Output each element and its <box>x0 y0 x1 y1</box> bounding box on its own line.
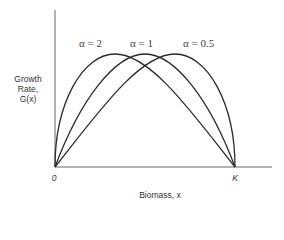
y-label-line2: Rate, <box>6 84 50 94</box>
label-alpha-0.5: α = 0.5 <box>183 37 214 49</box>
curve-alpha-1 <box>55 54 235 167</box>
label-alpha-1: α = 1 <box>130 37 153 49</box>
label-alpha-2: α = 2 <box>79 37 102 49</box>
y-axis-label: Growth Rate, G(x) <box>6 74 50 104</box>
curve-alpha-2 <box>55 54 235 167</box>
x-tick-origin: 0 <box>50 173 58 183</box>
y-label-line3: G(x) <box>6 94 50 104</box>
y-label-line1: Growth <box>6 74 50 84</box>
x-tick-k: K <box>230 173 240 183</box>
curve-alpha-0.5 <box>55 54 235 167</box>
x-axis-label: Biomass, x <box>120 190 200 200</box>
